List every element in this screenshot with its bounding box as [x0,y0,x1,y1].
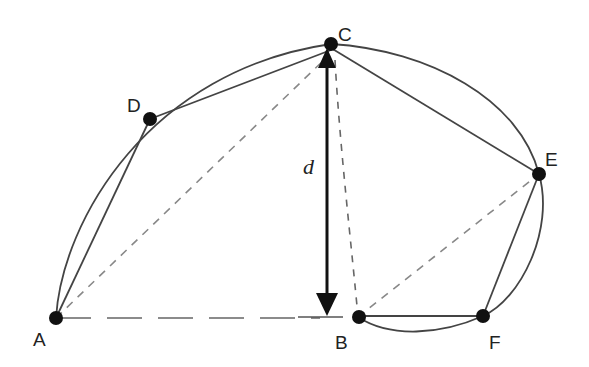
arc-f-b [358,316,483,332]
point-e [532,167,546,181]
label-f: F [489,333,501,352]
point-c [324,37,338,51]
dashed-b-e [358,174,539,317]
label-d: D [127,96,141,115]
point-d [143,112,157,126]
segment-a-d [56,119,150,318]
geometry-figure [0,0,589,367]
diagram-canvas: A D C E B F d [0,0,589,367]
point-a [49,311,63,325]
label-c: C [338,25,352,44]
label-d-distance: d [303,156,314,178]
label-e: E [545,150,558,169]
label-b: B [335,333,348,352]
dashed-c-b [335,60,358,317]
point-f [476,309,490,323]
segment-c-e [331,48,539,174]
segment-d-c [150,50,331,119]
label-a: A [33,330,46,349]
arc-a-c [56,44,331,318]
point-b [352,310,366,324]
arrowhead-down-icon [316,293,338,316]
arrowhead-up-icon [318,48,336,68]
